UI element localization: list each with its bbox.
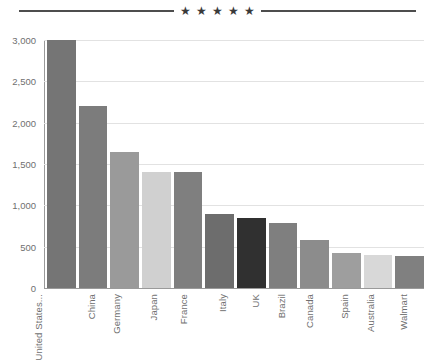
y-tick-label: 500 [20, 241, 36, 252]
bar-slot [79, 40, 108, 288]
x-slot: China [79, 292, 108, 364]
star-icon-2: ★ [196, 5, 207, 17]
x-tick-label: Canada [303, 294, 314, 328]
x-tick-label: Spain [339, 294, 350, 319]
x-tick-label: France [178, 294, 189, 324]
x-tick-label: Japan [149, 294, 160, 320]
bar[interactable] [364, 255, 393, 288]
axis-baseline [44, 288, 424, 289]
x-slot: United States... [47, 292, 76, 364]
y-tick-label: 3,000 [12, 35, 36, 46]
decorative-rule-left [19, 10, 174, 12]
y-tick-label: 2,000 [12, 117, 36, 128]
x-slot: UK [237, 292, 266, 364]
x-slot: Walmart [395, 292, 424, 364]
bar-slot [174, 40, 203, 288]
star-rating-decoration: ★ ★ ★ ★ ★ [180, 5, 255, 17]
bar-slot [205, 40, 234, 288]
x-tick-label: China [86, 294, 97, 319]
bar-slot [269, 40, 298, 288]
x-tick-label: Brazil [276, 294, 287, 318]
x-slot: Italy [205, 292, 234, 364]
bar-slot [110, 40, 139, 288]
star-icon-4: ★ [228, 5, 239, 17]
bar-slot [395, 40, 424, 288]
bar[interactable] [395, 256, 424, 288]
y-tick-label: 2,500 [12, 76, 36, 87]
x-slot: France [174, 292, 203, 364]
x-slot: Germany [110, 292, 139, 364]
x-tick-label: Italy [216, 294, 227, 312]
x-slot: Japan [142, 292, 171, 364]
x-slot: Australia [364, 292, 393, 364]
bar[interactable] [142, 172, 171, 288]
bar[interactable] [269, 223, 298, 288]
bar-slot [332, 40, 361, 288]
y-tick-label: 1,500 [12, 159, 36, 170]
star-icon-1: ★ [180, 5, 191, 17]
decorative-rule-right [261, 10, 416, 12]
bar-slot [142, 40, 171, 288]
star-icon-3: ★ [212, 5, 223, 17]
bar-slot [237, 40, 266, 288]
x-slot: Spain [332, 292, 361, 364]
x-tick-label: United States... [34, 294, 45, 361]
y-axis-tick-labels: 05001,0001,5002,0002,5003,000 [0, 40, 40, 288]
plot-area [44, 40, 424, 288]
bar[interactable] [174, 172, 203, 288]
x-slot: Brazil [269, 292, 298, 364]
y-tick-label: 0 [31, 283, 36, 294]
bar-chart: 05001,0001,5002,0002,5003,000 United Sta… [0, 22, 435, 356]
bar-slot [47, 40, 76, 288]
header-decoration: ★ ★ ★ ★ ★ [0, 0, 435, 22]
bar[interactable] [79, 106, 108, 288]
bar[interactable] [110, 152, 139, 288]
x-tick-label: UK [250, 294, 261, 307]
x-tick-label: Walmart [397, 294, 408, 330]
x-tick-label: Germany [110, 294, 121, 334]
star-icon-5: ★ [244, 5, 255, 17]
x-tick-label: Australia [365, 294, 376, 332]
bar[interactable] [205, 214, 234, 288]
bar[interactable] [300, 240, 329, 288]
x-axis-tick-labels: United States...ChinaGermanyJapanFranceI… [44, 292, 424, 364]
bar[interactable] [47, 40, 76, 288]
x-slot: Canada [300, 292, 329, 364]
bar-slot [364, 40, 393, 288]
bar-series [44, 40, 424, 288]
y-tick-label: 1,000 [12, 200, 36, 211]
bar[interactable] [237, 218, 266, 288]
bar-slot [300, 40, 329, 288]
bar[interactable] [332, 253, 361, 288]
